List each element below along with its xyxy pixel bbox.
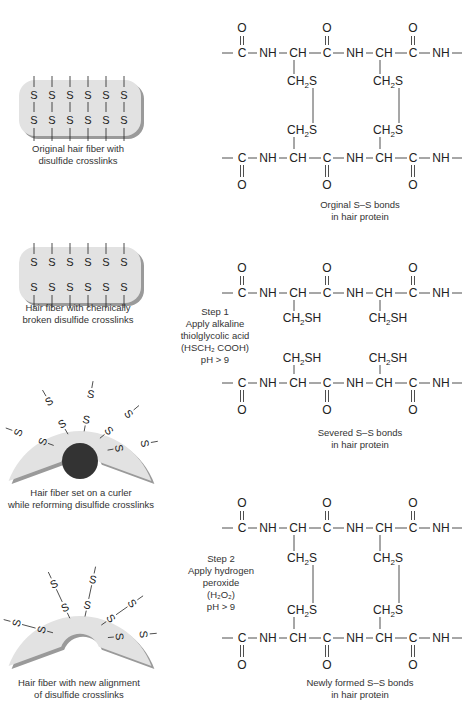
sulfur-atom: S [137, 630, 150, 638]
carbonyl-oxygen: O [408, 496, 417, 510]
sulfur-atom: S [88, 573, 98, 586]
backbone-atom-ch: CH [375, 376, 392, 390]
backbone-atom-nh: NH [259, 631, 276, 645]
backbone-atom-nh: NH [346, 46, 363, 60]
backbone-atom-nh: NH [432, 631, 449, 645]
backbone-atom-ch: CH [289, 151, 306, 165]
backbone-atom-nh: NH [259, 376, 276, 390]
fiber-tick [134, 406, 139, 410]
backbone-atom-nh: NH [346, 521, 363, 535]
sulfur-atom: S [30, 114, 37, 126]
carbonyl-oxygen: O [322, 261, 331, 275]
carbonyl-oxygen: O [408, 261, 417, 275]
carbonyl-oxygen: O [408, 658, 417, 672]
carbonyl-oxygen: O [408, 403, 417, 417]
fiber-tick [94, 567, 95, 574]
side-group-ch2s: CH2S [287, 603, 317, 619]
side-group-ch2sh: CH2SH [369, 351, 407, 367]
sulfur-atom: S [59, 600, 71, 614]
carbonyl-oxygen: O [237, 658, 246, 672]
fiber-tick [4, 620, 11, 622]
fiber-tick [150, 633, 157, 634]
carbonyl-oxygen: O [237, 178, 246, 192]
side-group-ch2s: CH2S [373, 551, 403, 567]
sulfur-atom: S [125, 597, 139, 610]
fiber-tick [92, 381, 93, 388]
sulfur-atom: S [84, 114, 91, 126]
sulfur-atom: S [120, 256, 127, 268]
backbone-atom-c: C [323, 376, 332, 390]
carbonyl-oxygen: O [408, 21, 417, 35]
backbone-atom-c: C [409, 376, 418, 390]
side-group-ch2s: CH2S [373, 74, 403, 90]
sulfur-atom: S [120, 89, 127, 101]
backbone-atom-ch: CH [289, 286, 306, 300]
backbone-atom-ch: CH [289, 46, 306, 60]
sulfur-atom: S [43, 394, 55, 408]
fiber-caption-curler: Hair fiber set on a curlerwhile reformin… [0, 487, 162, 511]
fiber-tick [43, 390, 47, 396]
backbone-atom-nh: NH [346, 286, 363, 300]
backbone-atom-c: C [238, 286, 247, 300]
sulfur-atom: S [120, 114, 127, 126]
sulfur-atom: S [11, 427, 25, 438]
backbone-atom-c: C [323, 151, 332, 165]
backbone-atom-nh: NH [346, 151, 363, 165]
carbonyl-oxygen: O [408, 178, 417, 192]
carbonyl-oxygen: O [237, 403, 246, 417]
curler-icon [62, 443, 98, 479]
backbone-atom-ch: CH [375, 631, 392, 645]
backbone-atom-c: C [409, 286, 418, 300]
backbone-atom-ch: CH [289, 376, 306, 390]
backbone-atom-nh: NH [432, 151, 449, 165]
backbone-atom-c: C [238, 151, 247, 165]
sulfur-atom: S [84, 256, 91, 268]
backbone-atom-c: C [238, 631, 247, 645]
carbonyl-oxygen: O [322, 178, 331, 192]
backbone-atom-nh: NH [346, 631, 363, 645]
sulfur-atom: S [102, 256, 109, 268]
backbone-atom-c: C [238, 46, 247, 60]
fiber-caption-original: Original hair fiber withdisulfide crossl… [8, 143, 148, 167]
carbonyl-oxygen: O [237, 496, 246, 510]
fiber-tick [151, 441, 158, 442]
sulfur-atom: S [84, 281, 91, 293]
side-group-ch2sh: CH2SH [369, 311, 407, 327]
side-group-ch2s: CH2S [373, 603, 403, 619]
backbone-atom-ch: CH [375, 46, 392, 60]
backbone-atom-c: C [323, 286, 332, 300]
backbone-atom-nh: NH [259, 286, 276, 300]
carbonyl-oxygen: O [237, 21, 246, 35]
step2-instructions: Step 2Apply hydrogenperoxide(H₂O₂)pH > 9 [182, 553, 260, 613]
backbone-atom-c: C [323, 46, 332, 60]
backbone-atom-ch: CH [375, 151, 392, 165]
backbone-atom-c: C [409, 631, 418, 645]
backbone-atom-nh: NH [432, 376, 449, 390]
backbone-atom-c: C [238, 521, 247, 535]
backbone-atom-ch: CH [375, 286, 392, 300]
sulfur-atom: S [86, 387, 95, 400]
sulfur-atom: S [114, 632, 127, 640]
sulfur-atom: S [66, 256, 73, 268]
backbone-atom-c: C [409, 521, 418, 535]
sulfur-atom: S [66, 89, 73, 101]
carbonyl-oxygen: O [322, 496, 331, 510]
sulfur-atom: S [66, 281, 73, 293]
side-group-ch2s: CH2S [287, 551, 317, 567]
chem-caption-broken: Severed S–S bondsin hair protein [290, 427, 430, 451]
side-group-ch2s: CH2S [287, 74, 317, 90]
backbone-atom-nh: NH [346, 376, 363, 390]
carbonyl-oxygen: O [322, 21, 331, 35]
sulfur-atom: S [48, 577, 60, 591]
sulfur-atom: S [120, 281, 127, 293]
sulfur-atom: S [83, 598, 93, 611]
fiber-tick [84, 425, 85, 431]
fiber-caption-reformed: Hair fiber with new alignmentof disulfid… [4, 677, 154, 701]
fiber-disulfide-bond [116, 607, 127, 615]
sulfur-atom: S [30, 256, 37, 268]
fiber-disulfide-bond [22, 624, 36, 628]
fiber-tick [85, 611, 86, 617]
step1-instructions: Step 1Apply alkalinethiolglycolic acid(H… [176, 306, 254, 366]
carbonyl-oxygen: O [237, 261, 246, 275]
sulfur-atom: S [66, 114, 73, 126]
